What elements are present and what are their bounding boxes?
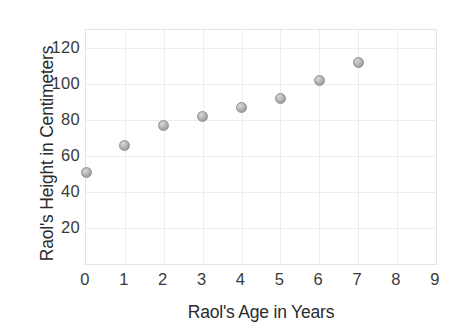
gridline-horizontal [86,84,436,85]
x-tick-label: 1 [109,270,139,289]
plot-area [85,29,437,265]
gridline-horizontal [86,48,436,49]
x-tick-label: 2 [148,270,178,289]
gridline-horizontal [86,120,436,121]
x-tick-label: 4 [226,270,256,289]
x-tick-label: 3 [187,270,217,289]
x-tick-label: 9 [420,270,450,289]
data-point [314,75,325,86]
data-point [81,167,92,178]
gridline-horizontal [86,156,436,157]
gridline-vertical [203,30,204,264]
x-tick-label: 6 [303,270,333,289]
y-tick-label: 120 [36,38,80,57]
gridline-horizontal [86,228,436,229]
data-point [158,120,169,131]
gridline-vertical [319,30,320,264]
data-point [275,93,286,104]
gridline-vertical [164,30,165,264]
gridline-vertical [397,30,398,264]
data-point [236,102,247,113]
x-tick-label: 7 [342,270,372,289]
gridline-vertical [242,30,243,264]
data-point [119,140,130,151]
x-axis-title: Raol's Age in Years [85,302,437,323]
gridline-vertical [280,30,281,264]
y-tick-label: 80 [36,110,80,129]
y-tick-label: 100 [36,74,80,93]
data-point [353,57,364,68]
y-axis-tick-labels: 20406080100120 [28,29,80,265]
gridline-horizontal [86,192,436,193]
x-tick-label: 8 [381,270,411,289]
x-axis-tick-labels: 0123456789 [85,270,437,294]
x-tick-label: 0 [70,270,100,289]
y-tick-label: 20 [36,218,80,237]
x-tick-label: 5 [264,270,294,289]
y-tick-label: 60 [36,146,80,165]
y-tick-label: 40 [36,182,80,201]
scatter-chart-figure: Raol's Height in Centimeters 20406080100… [0,0,464,336]
data-point [197,111,208,122]
